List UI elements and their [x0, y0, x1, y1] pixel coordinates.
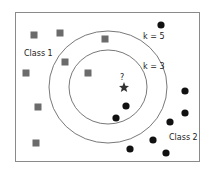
class1-square-icon: [57, 30, 64, 37]
class1-square-icon: [31, 32, 38, 39]
k5-label: k = 5: [143, 32, 165, 41]
class1-square-icon: [35, 104, 42, 111]
class2-dot-icon: [112, 114, 119, 121]
class2-dot-icon: [166, 118, 173, 125]
class1-square-icon: [102, 36, 109, 43]
query-label: ?: [120, 73, 124, 82]
class2-dot-icon: [162, 149, 169, 156]
class1-square-icon: [85, 70, 92, 77]
class1-square-icon: [23, 70, 30, 77]
class1-label: Class 1: [24, 49, 53, 58]
class2-dot-icon: [149, 136, 156, 143]
class2-dot-icon: [126, 145, 133, 152]
class2-label: Class 2: [169, 133, 198, 142]
class2-dot-icon: [181, 109, 188, 116]
class2-dot-icon: [122, 102, 129, 109]
class2-dot-icon: [157, 21, 164, 28]
class1-square-icon: [62, 59, 69, 66]
k3-label: k = 3: [143, 62, 165, 71]
class1-square-icon: [33, 140, 40, 147]
knn-diagram: ? Class 1 Class 2 k = 5 k = 3: [0, 0, 212, 173]
class2-dot-icon: [181, 87, 188, 94]
